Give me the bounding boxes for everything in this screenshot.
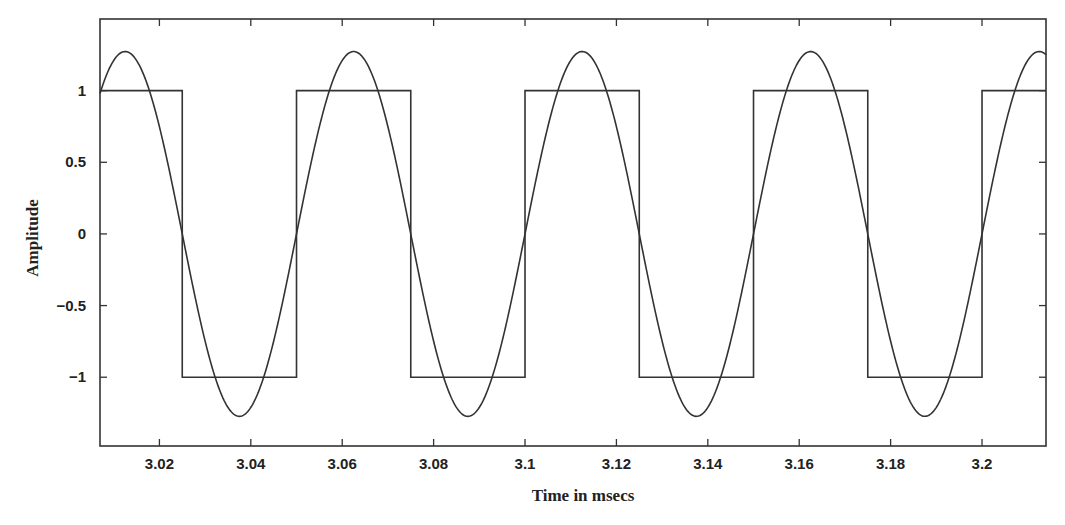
chart: 3.023.043.063.083.13.123.143.163.183.2 1… [0,0,1065,525]
x-axis: 3.023.043.063.083.13.123.143.163.183.2 [145,19,993,472]
x-axis-title: Time in msecs [532,486,635,505]
square-wave-series [100,91,1046,378]
x-tick-label: 3.02 [145,455,174,472]
x-tick-label: 3.14 [693,455,723,472]
y-tick-label: 0.5 [65,153,86,170]
y-tick-label: 0 [78,225,86,242]
x-tick-label: 3.1 [515,455,536,472]
y-axis-title: Amplitude [23,199,42,277]
x-tick-label: 3.04 [236,455,266,472]
y-tick-label: −0.5 [56,297,86,314]
x-tick-label: 3.16 [785,455,814,472]
x-tick-label: 3.18 [876,455,905,472]
sine-wave-series [100,52,1046,417]
axes-frame [100,19,1046,446]
plot-area [100,52,1046,417]
y-tick-label: −1 [69,368,86,385]
x-tick-label: 3.06 [328,455,357,472]
y-tick-label: 1 [78,82,86,99]
x-tick-label: 3.2 [972,455,993,472]
x-tick-label: 3.12 [602,455,631,472]
x-tick-label: 3.08 [419,455,448,472]
